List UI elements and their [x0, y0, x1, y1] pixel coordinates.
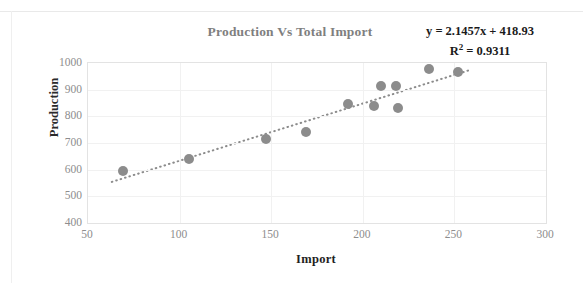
r-squared-value: = 0.9311: [463, 44, 510, 58]
gridline-horizontal: [88, 170, 546, 171]
regression-equation: y = 2.1457x + 418.93: [400, 23, 560, 39]
y-axis-title: Production: [47, 48, 62, 168]
gridline-horizontal: [88, 143, 546, 144]
gridline-horizontal: [88, 116, 546, 117]
data-point-marker: [424, 64, 434, 74]
r-squared-symbol: R: [450, 44, 459, 58]
frame-left-divider: [11, 11, 12, 283]
x-tick-label: 150: [240, 228, 300, 240]
r-squared-line: R2 = 0.9311: [400, 39, 560, 59]
x-axis-tick-labels: 50100150200250300: [87, 228, 545, 244]
gridline-vertical: [454, 63, 455, 223]
x-tick-label: 100: [149, 228, 209, 240]
data-point-marker: [118, 166, 128, 176]
data-point-marker: [261, 134, 271, 144]
x-axis-title: Import: [87, 252, 545, 267]
data-point-marker: [393, 103, 403, 113]
frame-top-divider: [0, 11, 583, 12]
chart-container: Production Vs Total Import y = 2.1457x +…: [0, 0, 583, 293]
data-point-marker: [391, 81, 401, 91]
data-point-marker: [301, 127, 311, 137]
trendline-path: [112, 70, 469, 182]
gridline-vertical: [271, 63, 272, 223]
gridline-vertical: [180, 63, 181, 223]
data-point-marker: [343, 99, 353, 109]
trendline-annotation: y = 2.1457x + 418.93 R2 = 0.9311: [400, 23, 560, 59]
chart-title: Production Vs Total Import: [170, 24, 410, 40]
data-point-marker: [369, 101, 379, 111]
gridline-horizontal: [88, 196, 546, 197]
x-tick-label: 300: [515, 228, 575, 240]
data-point-marker: [453, 67, 463, 77]
data-point-marker: [184, 154, 194, 164]
gridline-vertical: [363, 63, 364, 223]
plot-area: [87, 62, 547, 224]
y-tick-label: 500: [36, 189, 82, 201]
y-tick-label: 400: [36, 216, 82, 228]
x-tick-label: 50: [57, 228, 117, 240]
x-tick-label: 250: [423, 228, 483, 240]
x-tick-label: 200: [332, 228, 392, 240]
gridline-horizontal: [88, 90, 546, 91]
